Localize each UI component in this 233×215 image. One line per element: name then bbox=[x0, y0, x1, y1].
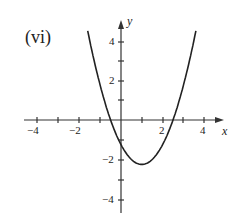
x-axis-label: x bbox=[222, 124, 227, 139]
parabola-curve bbox=[88, 31, 196, 165]
x-tick-label: −2 bbox=[69, 124, 81, 136]
x-tick-label: −4 bbox=[27, 124, 39, 136]
y-axis-arrow-icon bbox=[118, 20, 124, 29]
y-axis-label: y bbox=[127, 14, 132, 29]
plot-area bbox=[0, 0, 233, 215]
chart-figure: (vi) −4 − bbox=[0, 0, 233, 215]
y-tick-label: −2 bbox=[102, 153, 114, 165]
x-tick-label: 4 bbox=[200, 124, 206, 136]
y-tick-label: −4 bbox=[102, 193, 114, 205]
y-tick-label: 4 bbox=[109, 35, 115, 47]
x-tick-label: 2 bbox=[159, 124, 165, 136]
y-tick-label: 2 bbox=[109, 74, 115, 86]
x-axis-arrow-icon bbox=[215, 117, 224, 123]
